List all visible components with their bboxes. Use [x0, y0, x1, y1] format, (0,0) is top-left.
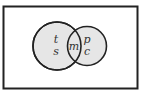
left-label-bottom: s [53, 45, 59, 58]
right-label-bottom: c [84, 45, 90, 58]
venn-diagram: t s m p c [0, 0, 149, 93]
intersection-label: m [69, 40, 79, 53]
